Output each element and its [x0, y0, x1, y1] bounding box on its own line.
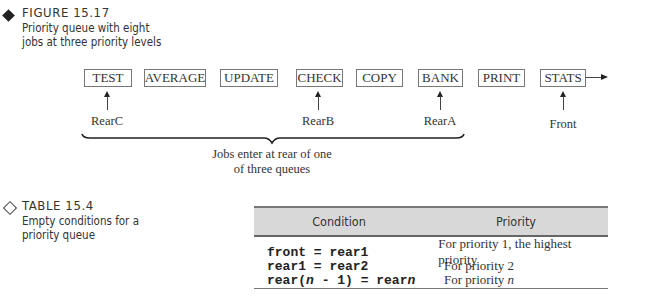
- row-2-condition: rear1 = rear2: [254, 259, 444, 274]
- queue-item-bank: BANK: [418, 69, 463, 87]
- figure-caption-line-1: Priority queue with eight: [22, 21, 149, 35]
- empty-conditions-table: Condition Priority front = rear1 For pri…: [254, 206, 608, 289]
- row-3-priority: For priority n: [444, 272, 514, 288]
- figure-label: FIGURE 15.17: [22, 5, 110, 20]
- row-3-cond-var2: n: [407, 273, 415, 288]
- row-3-cond-prefix: rear(: [267, 273, 306, 288]
- table-header-row: Condition Priority: [254, 208, 608, 237]
- row-3-cond-suffix: - 1) = rear: [314, 273, 408, 288]
- exit-arrow-icon: [586, 77, 602, 78]
- queue-item-average: AVERAGE: [144, 69, 206, 87]
- rearc-arrow-shaft: [107, 96, 108, 110]
- queue-item-stats: STATS: [540, 69, 586, 87]
- figure-caption-line-2: jobs at three priority levels: [22, 35, 161, 49]
- header-priority: Priority: [424, 214, 608, 229]
- row-1-condition: front = rear1: [254, 245, 438, 260]
- queue-item-update: UPDATE: [220, 69, 278, 87]
- table-marker-icon: [3, 201, 17, 215]
- queue-item-copy: COPY: [356, 69, 403, 87]
- front-arrow-shaft: [563, 96, 564, 110]
- table-label: TABLE 15.4: [22, 198, 94, 213]
- queue-item-check: CHECK: [296, 69, 343, 87]
- brace-note-line-2: of three queues: [202, 162, 342, 177]
- brace-note-line-1: Jobs enter at rear of one: [202, 147, 342, 162]
- rearb-arrow-shaft: [318, 96, 319, 110]
- figure-marker-icon: [2, 9, 15, 22]
- pointer-label-front: Front: [538, 117, 588, 132]
- pointer-label-reara: RearA: [415, 114, 465, 129]
- table-row: front = rear1 For priority 1, the highes…: [254, 245, 608, 259]
- pointer-label-rearc: RearC: [82, 114, 132, 129]
- pointer-label-rearb: RearB: [293, 114, 343, 129]
- table-row: rear(n - 1) = rearn For priority n: [254, 273, 608, 287]
- queue-item-test: TEST: [84, 69, 132, 87]
- brace-icon: [80, 132, 466, 146]
- reara-arrow-shaft: [440, 96, 441, 110]
- queue-item-print: PRINT: [478, 69, 525, 87]
- exit-arrowhead-icon: [601, 74, 608, 80]
- row-3-cond-var: n: [306, 273, 314, 288]
- table-caption-line-2: priority queue: [22, 228, 95, 242]
- table-caption-line-1: Empty conditions for a: [22, 214, 139, 228]
- row-3-priority-prefix: For priority: [444, 272, 508, 287]
- row-3-priority-var: n: [508, 272, 515, 287]
- header-condition: Condition: [254, 214, 424, 229]
- row-3-condition: rear(n - 1) = rearn: [254, 273, 444, 288]
